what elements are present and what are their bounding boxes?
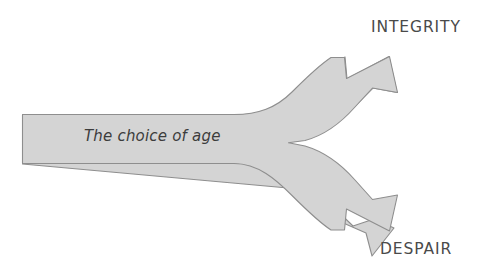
- source-label-choice-of-age: The choice of age: [84, 127, 221, 145]
- outcome-label-despair: DESPAIR: [380, 240, 452, 258]
- diagram-canvas: INTEGRITY DESPAIR The choice of age: [0, 0, 477, 279]
- outcome-label-integrity: INTEGRITY: [371, 18, 461, 36]
- split-arrow-graphic: [0, 0, 477, 279]
